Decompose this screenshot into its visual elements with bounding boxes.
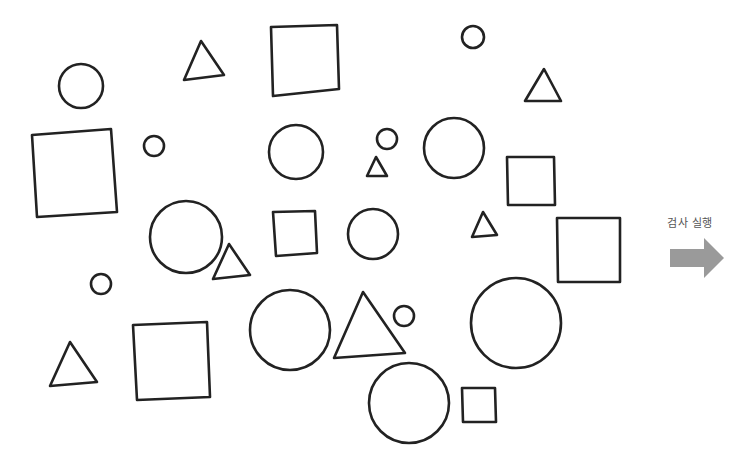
square-shape [557,218,620,282]
circle-shape [250,290,330,370]
circle-shape [377,129,397,149]
triangle-shape [472,212,497,237]
circle-group [59,26,561,443]
circle-shape [394,306,414,326]
triangle-shape [184,41,224,80]
shapes-canvas [0,0,749,473]
circle-shape [369,363,449,443]
triangle-shape [334,292,405,358]
square-shape [32,129,117,217]
right-arrow-icon [670,238,726,278]
triangle-shape [525,69,561,101]
circle-shape [144,136,164,156]
circle-shape [462,26,484,48]
square-shape [271,25,339,96]
run-test-button[interactable] [670,238,726,278]
triangle-shape [50,342,97,386]
square-shape [507,157,555,205]
circle-shape [269,125,323,179]
triangle-shape [367,157,387,176]
circle-shape [150,201,222,273]
square-group [32,25,620,422]
circle-shape [91,274,111,294]
square-shape [273,211,317,256]
circle-shape [348,209,398,259]
square-shape [133,322,210,400]
run-test-label: 검사 실행 [667,214,727,230]
circle-shape [424,118,484,178]
square-shape [462,388,496,422]
circle-shape [471,278,561,368]
circle-shape [59,64,103,108]
